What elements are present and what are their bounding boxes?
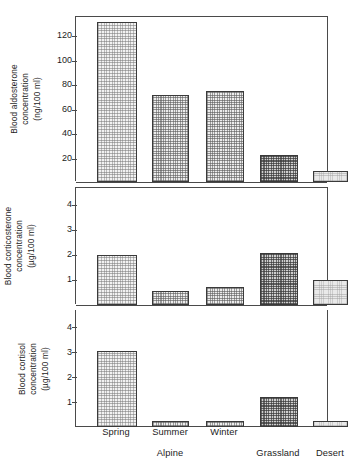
- y-tick-label: 120: [57, 31, 72, 40]
- y-axis-title-line2: concentration: [15, 206, 26, 285]
- x-group-label-grassland: Grassland: [256, 448, 299, 459]
- bar-summer: [152, 95, 189, 182]
- x-group-label-alpine: Alpine: [157, 448, 183, 459]
- y-axis-title-line3: (µg/100 ml): [26, 206, 37, 285]
- x-axis-labels: Spring Summer Winter Alpine Grassland De…: [75, 427, 328, 469]
- y-tick-label: 100: [57, 55, 72, 64]
- y-tick-label: 20: [62, 153, 72, 162]
- y-axis-title-line1: Blood cortisol: [17, 343, 28, 395]
- bar-winter: [206, 287, 244, 305]
- y-axis-tick-labels-aldosterone: 20 40 60 80 100 120: [50, 16, 72, 181]
- y-tick-label: 40: [62, 129, 72, 138]
- y-axis-title-line1: Blood corticosterone: [4, 206, 15, 285]
- bar-spring: [97, 255, 137, 305]
- y-axis-tick-labels-cortisol: 1 2 3 4: [50, 310, 72, 427]
- x-label-winter: Winter: [210, 427, 237, 438]
- y-axis-title-line2: concentration: [28, 343, 39, 395]
- y-axis-title-line1: Blood aldosterone: [8, 64, 19, 133]
- panel-corticosterone: Blood corticosterone concentration (µg/1…: [0, 187, 343, 304]
- plot-area-corticosterone: [75, 187, 328, 304]
- panel-cortisol: Blood cortisol concentration (µg/100 ml)…: [0, 310, 343, 427]
- y-axis-title-line3: (ng/100 ml): [31, 64, 42, 133]
- plot-area-cortisol: [75, 310, 328, 427]
- bar-desert: [313, 280, 348, 305]
- y-tick-label: 2: [67, 250, 72, 259]
- panel-aldosterone: Blood aldosterone concentration (ng/100 …: [0, 16, 343, 181]
- x-label-summer: Summer: [152, 427, 188, 438]
- bar-spring: [97, 351, 137, 427]
- bar-winter: [206, 91, 244, 182]
- y-tick-label: 3: [67, 225, 72, 234]
- y-axis-tick-labels-corticosterone: 1 2 3 4: [50, 187, 72, 304]
- x-axis-baseline: [76, 305, 327, 306]
- y-tick-label: 80: [62, 80, 72, 89]
- bar-series-cortisol: [76, 310, 327, 426]
- x-axis-baseline: [76, 182, 327, 183]
- x-label-spring: Spring: [102, 427, 129, 438]
- plot-area-aldosterone: [75, 16, 328, 181]
- y-tick-label: 1: [67, 275, 72, 284]
- x-group-label-desert: Desert: [316, 448, 344, 459]
- y-axis-title-line2: concentration: [20, 64, 31, 133]
- bar-summer: [152, 291, 189, 305]
- y-tick-label: 60: [62, 104, 72, 113]
- bar-desert: [313, 171, 348, 182]
- bar-spring: [97, 22, 137, 182]
- y-tick-label: 4: [67, 200, 72, 209]
- bar-grassland: [260, 397, 298, 427]
- bar-grassland: [260, 253, 298, 305]
- bar-grassland: [260, 155, 298, 182]
- bar-series-corticosterone: [76, 188, 327, 304]
- bar-series-aldosterone: [76, 17, 327, 181]
